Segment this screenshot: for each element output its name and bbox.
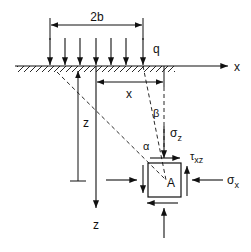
strip-load-stress-diagram: 2b q x z z x β α A σz τxz (0, 0, 251, 252)
z-axis-label: z (93, 218, 99, 232)
point-A-label: A (167, 176, 175, 190)
stress-element (148, 163, 181, 197)
beta-label: β (153, 107, 159, 119)
alpha-label: α (143, 140, 150, 152)
diagram-canvas: 2b q x z z x β α A σz τxz (0, 0, 251, 252)
ray-from-left-edge (57, 72, 166, 180)
z-dimension-label: z (83, 116, 89, 130)
tau-xz-label: τxz (190, 150, 204, 165)
sigma-x-label: σx (227, 173, 239, 190)
x-axis-label: x (234, 60, 240, 74)
width-dimension: 2b (50, 10, 143, 40)
load-label: q (153, 42, 160, 56)
x-dimension-label: x (126, 87, 132, 101)
sigma-z-label: σz (170, 126, 182, 143)
distributed-load-arrows (50, 38, 143, 65)
width-label: 2b (90, 10, 104, 24)
